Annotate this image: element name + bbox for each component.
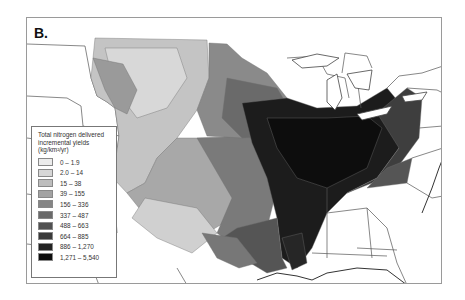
- map-legend: Total nitrogen delivered incremental yie…: [31, 126, 117, 278]
- legend-item: 664 – 885: [38, 231, 112, 242]
- legend-item: 156 – 336: [38, 199, 112, 210]
- legend-rows: 0 – 1.92.0 – 1415 – 3839 – 155156 – 3363…: [38, 157, 112, 263]
- legend-label: 337 – 487: [60, 212, 88, 219]
- legend-swatch: [38, 158, 53, 166]
- legend-item: 1,271 – 5,540: [38, 252, 112, 263]
- legend-label: 156 – 336: [60, 201, 88, 208]
- legend-label: 39 – 155: [60, 190, 85, 197]
- legend-swatch: [38, 190, 53, 198]
- legend-item: 337 – 487: [38, 210, 112, 221]
- legend-title-line1: Total nitrogen delivered: [38, 131, 112, 139]
- legend-label: 0 – 1.9: [60, 159, 80, 166]
- legend-swatch: [38, 253, 53, 261]
- legend-label: 664 – 885: [60, 233, 88, 240]
- legend-title-line3: (kg/km²/yr): [38, 146, 112, 154]
- legend-swatch: [38, 211, 53, 219]
- legend-item: 39 – 155: [38, 189, 112, 200]
- legend-label: 886 – 1,270: [60, 243, 94, 250]
- legend-title-line2: incremental yields: [38, 139, 112, 147]
- panel-label: B.: [34, 25, 48, 41]
- legend-item: 886 – 1,270: [38, 242, 112, 253]
- legend-swatch: [38, 222, 53, 230]
- legend-swatch: [38, 243, 53, 251]
- legend-label: 1,271 – 5,540: [60, 254, 99, 261]
- legend-label: 15 – 38: [60, 180, 81, 187]
- legend-item: 2.0 – 14: [38, 167, 112, 178]
- yield-regions: [91, 38, 422, 273]
- legend-swatch: [38, 169, 53, 177]
- legend-swatch: [38, 179, 53, 187]
- legend-label: 488 – 663: [60, 222, 88, 229]
- legend-item: 15 – 38: [38, 178, 112, 189]
- legend-swatch: [38, 200, 53, 208]
- legend-item: 488 – 663: [38, 220, 112, 231]
- legend-label: 2.0 – 14: [60, 169, 83, 176]
- legend-swatch: [38, 232, 53, 240]
- legend-item: 0 – 1.9: [38, 157, 112, 168]
- legend-title: Total nitrogen delivered incremental yie…: [38, 131, 112, 154]
